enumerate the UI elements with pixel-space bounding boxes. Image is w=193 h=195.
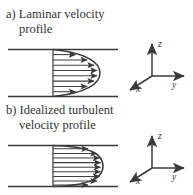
panel-b-blunt-envelope (53, 146, 103, 187)
panel-b-axis-label-z: z (157, 131, 162, 141)
panel-b-axis-label-x: x (135, 176, 141, 186)
velocity-profile-figure: a) Laminar velocity profile (0, 0, 193, 195)
panel-b-axis-triad: z y x (130, 131, 184, 186)
panel-b-diagram: z y x (0, 0, 193, 195)
panel-b-axis-label-y: y (171, 172, 177, 182)
